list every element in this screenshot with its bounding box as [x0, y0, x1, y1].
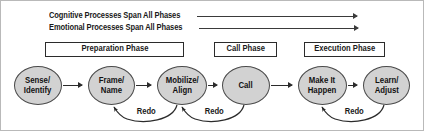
- redo-label-mobilize-to-frame: Redo: [137, 108, 156, 116]
- redo-label-learn-to-make-it-happen: Redo: [345, 108, 364, 116]
- diagram-canvas: Cognitive Processes Span All Phases Emot…: [0, 0, 424, 131]
- redo-label-call-to-mobilize: Redo: [205, 108, 224, 116]
